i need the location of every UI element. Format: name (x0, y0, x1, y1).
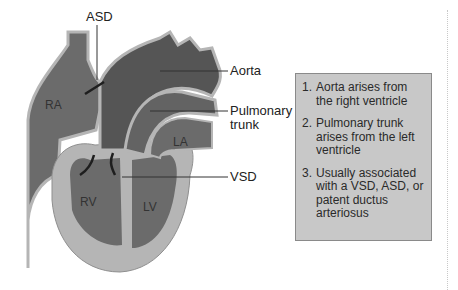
la-label: LA (173, 135, 188, 149)
septum (123, 170, 131, 230)
info-item-number: 1. (302, 81, 316, 108)
ra-label: RA (45, 98, 62, 112)
aorta-label: Aorta (230, 64, 261, 78)
info-item-text: Aorta arises from the right ventricle (316, 81, 425, 108)
info-item-number: 3. (302, 167, 316, 221)
vsd-label: VSD (230, 170, 257, 184)
info-item-3: 3. Usually associated with a VSD, ASD, o… (302, 167, 425, 221)
info-box: 1. Aorta arises from the right ventricle… (295, 73, 432, 241)
page-margin-rule (447, 10, 448, 290)
info-item-text: Pulmonary trunk arises from the left ven… (316, 117, 425, 158)
pulmonary-label-line2: trunk (230, 118, 259, 132)
info-item-2: 2. Pulmonary trunk arises from the left … (302, 117, 425, 158)
lv-label: LV (143, 200, 157, 214)
pulmonary-label-line1: Pulmonary (230, 104, 292, 118)
info-item-text: Usually associated with a VSD, ASD, or p… (316, 167, 425, 221)
info-item-number: 2. (302, 117, 316, 158)
asd-label: ASD (86, 10, 113, 24)
info-item-1: 1. Aorta arises from the right ventricle (302, 81, 425, 108)
rv-label: RV (80, 195, 96, 209)
